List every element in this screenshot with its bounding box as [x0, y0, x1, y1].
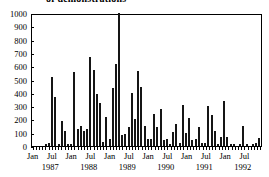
bar — [156, 127, 158, 146]
bar — [217, 144, 219, 146]
x-axis-tick-mark — [113, 147, 114, 150]
x-axis-tick-label: Jul — [162, 152, 172, 161]
x-axis-tick-label: Jul — [47, 152, 57, 161]
bar — [115, 64, 117, 146]
y-axis-tick-label: 900 — [14, 23, 27, 32]
x-axis-tick-mark — [52, 147, 53, 150]
x-axis-tick-mark — [33, 147, 34, 150]
x-axis-tick-mark — [196, 147, 197, 150]
x-axis-tick-label: Jan — [27, 152, 38, 161]
bar — [258, 138, 260, 146]
bar — [118, 13, 120, 146]
bar — [191, 140, 193, 146]
x-axis-tick-mark — [225, 147, 226, 150]
x-axis-tick-mark — [49, 147, 50, 150]
x-axis-tick-mark — [90, 147, 91, 150]
bar — [102, 142, 104, 146]
x-axis-tick-mark — [164, 147, 165, 150]
bar — [109, 139, 111, 146]
x-axis-tick-label: Jul — [124, 152, 134, 161]
x-axis-tick-mark — [78, 147, 79, 150]
x-axis-tick-mark — [119, 147, 120, 150]
y-axis-tick-label: 1000 — [10, 10, 27, 19]
x-axis-tick-mark — [199, 147, 200, 150]
x-axis-tick-mark — [142, 147, 143, 150]
x-axis-tick-mark — [254, 147, 255, 150]
x-axis-tick-mark — [126, 147, 127, 150]
bar — [134, 119, 136, 146]
bar — [77, 129, 79, 146]
x-axis-tick-mark — [135, 147, 136, 150]
bar — [147, 139, 149, 146]
y-axis-tick-mark — [31, 67, 34, 68]
x-axis-tick-mark — [148, 147, 149, 150]
y-axis-tick-mark — [31, 54, 34, 55]
bar — [80, 126, 82, 146]
bar — [105, 117, 107, 146]
bar — [48, 143, 50, 146]
x-axis-tick-mark — [122, 147, 123, 150]
x-axis-tick-mark — [97, 147, 98, 150]
y-axis-tick-mark — [31, 107, 34, 108]
x-axis-tick-mark — [158, 147, 159, 150]
x-axis-tick-label: Jan — [142, 152, 153, 161]
y-axis-tick-label: 400 — [14, 90, 27, 99]
x-axis-tick-mark — [94, 147, 95, 150]
x-axis-tick-mark — [241, 147, 242, 150]
y-axis-tick-label: 500 — [14, 76, 27, 85]
bar — [137, 71, 139, 146]
x-axis-year-label: 1992 — [234, 163, 251, 172]
y-axis-tick-mark — [31, 94, 34, 95]
bar — [246, 144, 248, 146]
x-axis-tick-mark — [74, 147, 75, 150]
x-axis-tick-mark — [132, 147, 133, 150]
bar — [252, 144, 254, 146]
x-axis-tick-mark — [228, 147, 229, 150]
bar — [195, 139, 197, 146]
bar — [140, 87, 142, 146]
x-axis-tick-mark — [81, 147, 82, 150]
x-axis-tick-label: Jan — [104, 152, 115, 161]
plot-area — [31, 14, 262, 147]
bar — [86, 129, 88, 146]
bar — [153, 114, 155, 146]
x-axis-tick-mark — [193, 147, 194, 150]
x-axis-tick-mark — [145, 147, 146, 150]
x-axis-tick-mark — [110, 147, 111, 150]
x-axis-tick-mark — [167, 147, 168, 150]
x-axis-tick-mark — [183, 147, 184, 150]
bar — [182, 105, 184, 146]
bar — [124, 134, 126, 146]
x-axis-tick-mark — [180, 147, 181, 150]
bar — [93, 70, 95, 146]
bar — [242, 126, 244, 146]
bar — [179, 143, 181, 146]
x-axis-tick-mark — [232, 147, 233, 150]
bar — [230, 144, 232, 146]
x-axis-tick-mark — [155, 147, 156, 150]
x-axis-tick-mark — [222, 147, 223, 150]
bar — [73, 72, 75, 146]
x-axis-tick-mark — [55, 147, 56, 150]
y-axis-tick-label: 300 — [14, 103, 27, 112]
bar-chart-figure: of demonstrations 0100200300400500600700… — [0, 0, 269, 177]
bar — [61, 121, 63, 146]
x-axis-tick-label: Jul — [239, 152, 249, 161]
x-axis-tick-mark — [39, 147, 40, 150]
x-axis-tick-mark — [103, 147, 104, 150]
bar — [223, 101, 225, 146]
bar — [64, 131, 66, 146]
y-axis-tick-mark — [31, 41, 34, 42]
bar — [67, 144, 69, 146]
x-axis-tick-mark — [45, 147, 46, 150]
x-axis-year-label: 1990 — [157, 163, 174, 172]
y-axis-tick-label: 600 — [14, 63, 27, 72]
x-axis-tick-mark — [84, 147, 85, 150]
bar-series — [32, 15, 261, 146]
chart-title: of demonstrations — [46, 0, 166, 2]
x-axis-tick-mark — [260, 147, 261, 150]
x-axis-tick-mark — [58, 147, 59, 150]
bar — [160, 109, 162, 146]
x-axis-tick-mark — [65, 147, 66, 150]
x-axis-tick-mark — [257, 147, 258, 150]
